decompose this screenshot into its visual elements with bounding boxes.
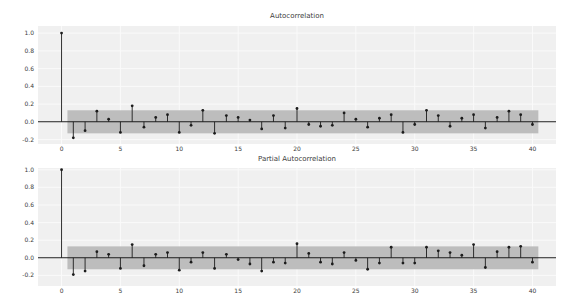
svg-text:5: 5 [118,145,122,152]
svg-text:0.2: 0.2 [24,100,34,107]
svg-text:0.6: 0.6 [24,65,34,72]
svg-text:10: 10 [175,287,183,294]
svg-text:1.0: 1.0 [24,166,34,173]
svg-text:0.4: 0.4 [24,219,34,226]
svg-text:35: 35 [470,287,478,294]
svg-text:40: 40 [529,287,537,294]
svg-text:0.0: 0.0 [24,118,34,125]
svg-text:10: 10 [175,145,183,152]
svg-text:0.2: 0.2 [24,236,34,243]
pacf-plot: 1.00.80.60.40.20.0-0.20510152025303540 [22,166,556,294]
svg-text:25: 25 [352,287,360,294]
svg-text:20: 20 [293,145,301,152]
stem-plots-canvas: 1.00.80.60.40.20.0-0.205101520253035401.… [0,0,569,302]
acf-pacf-figure: Autocorrelation Partial Autocorrelation … [0,0,569,302]
svg-text:0.8: 0.8 [24,47,34,54]
svg-text:35: 35 [470,145,478,152]
svg-text:0.6: 0.6 [24,201,34,208]
svg-text:-0.2: -0.2 [22,271,34,278]
svg-text:5: 5 [118,287,122,294]
svg-text:-0.2: -0.2 [22,136,34,143]
svg-text:0: 0 [60,287,64,294]
acf-plot: 1.00.80.60.40.20.0-0.20510152025303540 [22,26,556,152]
svg-text:0: 0 [60,145,64,152]
svg-text:15: 15 [234,145,242,152]
svg-text:30: 30 [411,287,419,294]
svg-text:40: 40 [529,145,537,152]
svg-text:0.8: 0.8 [24,183,34,190]
svg-text:0.0: 0.0 [24,254,34,261]
svg-text:20: 20 [293,287,301,294]
svg-text:15: 15 [234,287,242,294]
svg-text:0.4: 0.4 [24,82,34,89]
svg-text:1.0: 1.0 [24,29,34,36]
svg-text:25: 25 [352,145,360,152]
svg-text:30: 30 [411,145,419,152]
